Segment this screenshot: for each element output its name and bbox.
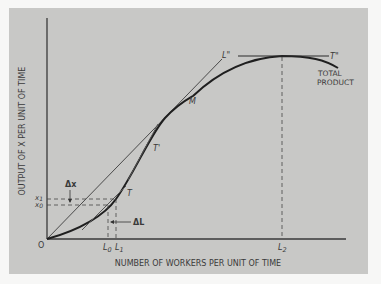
curve-label-line1: TOTAL	[317, 69, 343, 78]
x-tick-L0: L0	[103, 243, 112, 254]
point-label-T-prime: T'	[153, 144, 160, 153]
x-axis-title: NUMBER OF WORKERS PER UNIT OF TIME	[115, 259, 281, 268]
curve-label-line2: PRODUCT	[317, 78, 354, 87]
total-product-diagram: O T T' M L" T" TOTAL PRODUCT x1 x0 L0 L1…	[0, 0, 381, 284]
point-label-T: T	[127, 189, 133, 198]
y-axis-title: OUTPUT OF X PER UNIT OF TIME	[18, 67, 27, 196]
delta-x-label: Δx	[65, 180, 77, 189]
origin-label: O	[38, 241, 44, 250]
point-label-L-double-prime: L"	[222, 51, 230, 60]
tangent-at-T	[82, 186, 126, 230]
ray-from-origin-L-double-prime	[47, 59, 222, 239]
x-tick-L2: L2	[278, 243, 287, 254]
y-tick-x0: x0	[34, 201, 43, 209]
delta-x-arrowhead	[68, 199, 72, 203]
delta-L-label: ΔL	[133, 218, 144, 227]
delta-L-arrowhead	[110, 220, 114, 224]
total-product-curve	[47, 56, 338, 239]
point-label-M: M	[189, 97, 196, 106]
point-label-T-double-prime: T"	[330, 52, 339, 61]
x-tick-L1: L1	[115, 243, 124, 254]
